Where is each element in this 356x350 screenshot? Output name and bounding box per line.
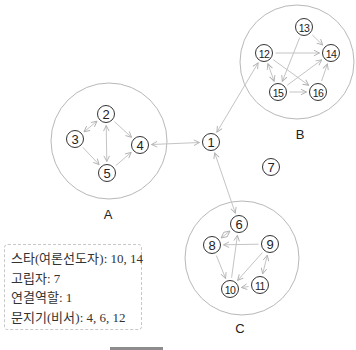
edge-13-15	[282, 38, 299, 82]
group-label-a: A	[104, 207, 113, 222]
edge-3-2	[84, 121, 97, 132]
node-label: 9	[266, 237, 273, 252]
legend-stars: 스타(여론선도자): 10, 14	[11, 249, 141, 269]
node-1: 1	[203, 134, 220, 151]
node-label: 14	[326, 48, 337, 60]
node-9: 9	[262, 236, 279, 253]
node-10: 10	[222, 281, 239, 298]
edge-8-6	[221, 231, 230, 238]
legend-liaison: 연결역할: 1	[11, 288, 141, 308]
edge-5-4	[116, 152, 131, 165]
node-16: 16	[310, 84, 327, 101]
node-label: 11	[255, 280, 266, 292]
edge-16-14	[322, 64, 328, 81]
edge-12-15	[268, 64, 274, 81]
group-label-c: C	[235, 321, 244, 336]
edge-3-5	[83, 147, 99, 164]
node-14: 14	[323, 45, 340, 62]
edge-11-10	[241, 287, 248, 288]
node-label: 1	[207, 135, 214, 150]
node-label: 3	[71, 132, 78, 147]
edge-12-16	[273, 60, 308, 86]
legend-box: 스타(여론선도자): 10, 14 고립자: 7 연결역할: 1 문지기(비서)…	[4, 244, 142, 330]
node-label: 4	[136, 138, 143, 153]
edge-15-14	[287, 60, 321, 85]
edge-1-4	[152, 143, 200, 145]
edge-2-4	[115, 122, 132, 138]
node-8: 8	[204, 237, 221, 254]
node-label: 16	[313, 87, 324, 99]
group-label-b: B	[296, 127, 305, 142]
legend-isolate: 고립자: 7	[11, 269, 141, 289]
edge-9-8	[224, 244, 259, 245]
node-label: 2	[102, 107, 109, 122]
node-label: 15	[273, 87, 284, 99]
node-12: 12	[256, 45, 273, 62]
node-11: 11	[252, 277, 269, 294]
node-label: 12	[259, 48, 270, 60]
node-4: 4	[132, 137, 149, 154]
edge-13-14	[312, 35, 322, 45]
node-13: 13	[296, 19, 313, 36]
node-6: 6	[231, 216, 248, 233]
node-3: 3	[67, 131, 84, 148]
node-label: 13	[299, 22, 310, 34]
node-label: 8	[208, 238, 215, 253]
node-2: 2	[98, 106, 115, 123]
node-15: 15	[270, 84, 287, 101]
edge-8-10	[216, 256, 225, 279]
node-label: 5	[103, 166, 110, 181]
node-7: 7	[263, 159, 280, 176]
legend-gatekeepers: 문지기(비서): 4, 6, 12	[11, 308, 141, 328]
node-label: 6	[235, 217, 242, 232]
node-label: 10	[225, 284, 236, 296]
node-label: 7	[267, 160, 274, 175]
node-5: 5	[99, 165, 116, 182]
edge-10-6	[232, 235, 238, 277]
edge-2-5	[106, 126, 107, 162]
edge-9-11	[263, 255, 268, 274]
